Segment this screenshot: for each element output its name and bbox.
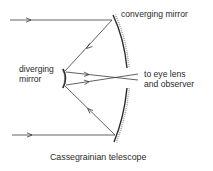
converging-mirror-label: converging mirror: [121, 10, 188, 20]
output-label: to eye lens and observer: [144, 70, 194, 89]
converging-mirror-upper: [113, 14, 130, 68]
diagram-caption: Cassegrainian telescope: [50, 152, 146, 162]
reflected-ray-bottom: [65, 86, 115, 135]
reflected-ray-top: [65, 20, 112, 71]
incoming-ray-top: [10, 18, 112, 22]
diverging-mirror-text-line2: mirror: [19, 75, 54, 85]
incoming-ray-bottom: [12, 133, 115, 137]
arrow-down-left-icon: [87, 44, 93, 49]
output-text-line2: and observer: [144, 80, 194, 90]
converging-mirror-lower: [114, 88, 130, 143]
diverging-mirror-label: diverging mirror: [19, 65, 54, 84]
converging-mirror-text: converging mirror: [121, 9, 188, 19]
diverging-mirror: [62, 69, 66, 88]
